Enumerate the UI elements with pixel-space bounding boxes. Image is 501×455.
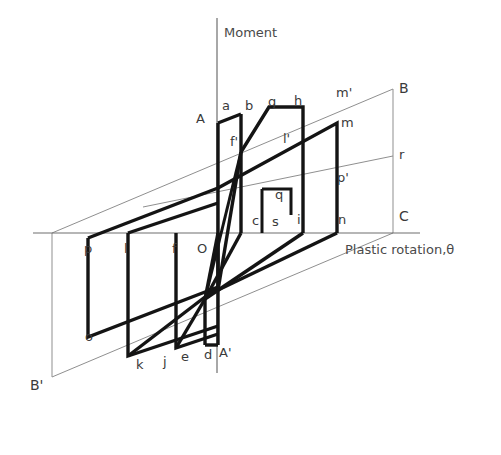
label-j: j — [162, 354, 167, 369]
label-c: c — [252, 213, 259, 228]
label-r: r — [399, 147, 405, 162]
hysteresis-loops — [88, 107, 337, 356]
guide-line-r — [143, 156, 393, 207]
label-q: q — [275, 187, 283, 202]
label-e: e — [181, 349, 189, 364]
label-k: k — [136, 357, 144, 372]
label-p: p — [84, 241, 92, 256]
label-a: a — [222, 98, 230, 113]
label-B-prime: B' — [30, 377, 43, 393]
label-o: o — [85, 329, 93, 344]
label-A: A — [196, 111, 205, 126]
axes — [33, 18, 420, 373]
label-origin: O — [197, 241, 207, 256]
label-m-prime: m' — [336, 85, 352, 100]
label-A-prime: A' — [219, 345, 231, 360]
label-s: s — [272, 214, 279, 229]
label-l-prime: l' — [283, 131, 290, 146]
moment-rotation-diagram: A a b g h m' B m f' l' r p' q c s i n C … — [0, 0, 501, 455]
loop-column-a-top — [218, 114, 241, 123]
label-i: i — [297, 212, 301, 227]
label-g: g — [268, 94, 276, 109]
label-h: h — [294, 93, 302, 108]
figure-canvas: A a b g h m' B m f' l' r p' q c s i n C … — [0, 0, 501, 455]
label-f-prime: f' — [230, 134, 238, 149]
label-m: m — [341, 115, 354, 130]
label-l: l — [124, 241, 128, 256]
loop-fan-up-b — [218, 152, 241, 290]
axis-label-plastic-rotation: Plastic rotation,θ — [345, 242, 454, 257]
label-d: d — [204, 347, 212, 362]
loop-outer-upper-branch — [88, 188, 218, 238]
label-C: C — [399, 208, 409, 224]
label-f: f — [172, 241, 177, 256]
axis-label-moment: Moment — [224, 25, 277, 40]
label-B: B — [399, 80, 409, 96]
label-p-prime: p' — [337, 170, 349, 185]
label-n: n — [338, 212, 346, 227]
label-b: b — [245, 98, 253, 113]
